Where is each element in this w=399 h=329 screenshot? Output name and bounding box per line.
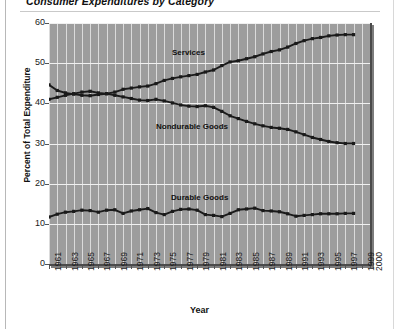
- data-point-marker: [130, 97, 133, 100]
- y-tick-label: 20: [15, 178, 45, 188]
- series-label-durable: Durable Goods: [171, 193, 228, 202]
- data-point-marker: [154, 211, 157, 214]
- data-point-marker: [56, 89, 59, 92]
- x-tick-mark: [370, 266, 371, 269]
- data-point-marker: [294, 130, 297, 133]
- data-point-marker: [163, 99, 166, 102]
- data-point-marker: [237, 59, 240, 62]
- data-point-marker: [261, 209, 264, 212]
- data-point-marker: [80, 94, 83, 97]
- x-tick-mark: [296, 266, 297, 269]
- data-point-marker: [97, 91, 100, 94]
- data-point-marker: [278, 127, 281, 130]
- data-point-marker: [286, 46, 289, 49]
- data-point-marker: [327, 140, 330, 143]
- data-point-marker: [97, 211, 100, 214]
- data-point-marker: [294, 42, 297, 45]
- data-point-marker: [220, 64, 223, 67]
- data-point-marker: [344, 212, 347, 215]
- data-point-marker: [113, 90, 116, 93]
- data-point-marker: [311, 136, 314, 139]
- data-point-marker: [286, 128, 289, 131]
- data-point-marker: [179, 75, 182, 78]
- x-tick-label: 1991: [300, 252, 310, 271]
- data-point-marker: [80, 209, 83, 212]
- x-tick-label: 1977: [185, 252, 195, 271]
- title-divider: [20, 11, 380, 12]
- x-tick-label: 1971: [135, 252, 145, 271]
- data-point-marker: [204, 104, 207, 107]
- data-point-marker: [130, 209, 133, 212]
- x-tick-mark: [214, 266, 215, 269]
- y-tick-label: 40: [15, 97, 45, 107]
- data-point-marker: [196, 209, 199, 212]
- data-point-marker: [344, 142, 347, 145]
- page-left-rule: [5, 0, 6, 329]
- data-point-marker: [245, 207, 248, 210]
- data-point-marker: [204, 213, 207, 216]
- data-point-marker: [253, 122, 256, 125]
- data-point-marker: [187, 74, 190, 77]
- data-point-marker: [228, 212, 231, 215]
- data-point-marker: [335, 141, 338, 144]
- x-tick-mark: [66, 266, 67, 269]
- data-point-marker: [319, 212, 322, 215]
- data-point-marker: [146, 207, 149, 210]
- data-point-marker: [270, 50, 273, 53]
- y-axis-ticks: 0102030405060: [12, 23, 45, 264]
- series-lines: [49, 23, 370, 264]
- data-point-marker: [146, 84, 149, 87]
- data-point-marker: [228, 114, 231, 117]
- data-point-marker: [56, 213, 59, 216]
- x-tick-mark: [164, 266, 165, 269]
- data-point-marker: [130, 86, 133, 89]
- data-point-marker: [89, 90, 92, 93]
- x-tick-label: 1997: [349, 252, 359, 271]
- data-point-marker: [253, 207, 256, 210]
- data-point-marker: [171, 77, 174, 80]
- data-point-marker: [187, 207, 190, 210]
- x-tick-label: 1961: [53, 252, 63, 271]
- data-point-marker: [64, 94, 67, 97]
- data-point-marker: [352, 142, 355, 145]
- data-point-marker: [212, 68, 215, 71]
- x-axis-ticks: 1961196319651967196919711973197519771979…: [49, 266, 379, 306]
- x-tick-mark: [312, 266, 313, 269]
- data-point-marker: [154, 98, 157, 101]
- x-tick-mark: [345, 266, 346, 269]
- data-point-marker: [212, 214, 215, 217]
- data-point-marker: [294, 215, 297, 218]
- data-point-marker: [270, 126, 273, 129]
- x-tick-label: 1995: [333, 252, 343, 271]
- data-point-marker: [121, 88, 124, 91]
- figure-page: Consumer Expenditures by Category Percen…: [0, 0, 399, 329]
- data-point-marker: [72, 92, 75, 95]
- x-tick-mark: [115, 266, 116, 269]
- x-tick-label: 1969: [119, 252, 129, 271]
- data-point-marker: [311, 213, 314, 216]
- data-point-marker: [253, 55, 256, 58]
- x-tick-mark: [280, 266, 281, 269]
- data-point-marker: [245, 120, 248, 123]
- data-point-marker: [220, 110, 223, 113]
- data-point-marker: [319, 36, 322, 39]
- y-tick-label: 10: [15, 218, 45, 228]
- data-point-marker: [352, 33, 355, 36]
- x-tick-mark: [98, 266, 99, 269]
- x-tick-mark: [131, 266, 132, 269]
- series-line-nondurable-goods: [49, 91, 354, 143]
- data-point-marker: [261, 52, 264, 55]
- data-point-marker: [278, 48, 281, 51]
- data-point-marker: [196, 105, 199, 108]
- data-point-marker: [303, 133, 306, 136]
- data-point-marker: [212, 106, 215, 109]
- data-point-marker: [220, 215, 223, 218]
- data-point-marker: [121, 212, 124, 215]
- x-tick-label: 1983: [234, 252, 244, 271]
- x-tick-label: 1979: [201, 252, 211, 271]
- data-point-marker: [270, 209, 273, 212]
- data-point-marker: [121, 95, 124, 98]
- x-tick-mark: [82, 266, 83, 269]
- data-point-marker: [154, 82, 157, 85]
- series-label-nondurable: Nondurable Goods: [156, 122, 228, 131]
